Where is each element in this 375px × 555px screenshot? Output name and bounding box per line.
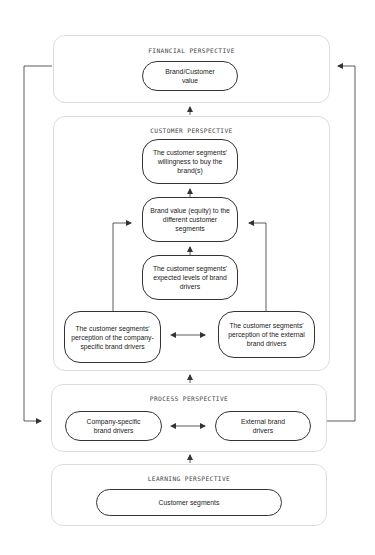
node-brand-customer-value: Brand/Customer value — [142, 61, 238, 91]
node-external-drivers: External brand drivers — [215, 411, 311, 441]
financial-perspective-title: FINANCIAL PERSPECTIVE — [54, 47, 329, 54]
node-perception-external: The customer segments' perception of the… — [218, 311, 315, 358]
learning-perspective-title: LEARNING PERSPECTIVE — [52, 475, 326, 482]
customer-perspective-title: CUSTOMER PERSPECTIVE — [54, 127, 329, 134]
node-expected-levels: The customer segments' expected levels o… — [142, 255, 238, 300]
node-perception-company: The customer segments' perception of the… — [64, 311, 161, 363]
node-customer-segments: Customer segments — [96, 489, 282, 516]
node-willingness-to-buy: The customer segments' willingness to bu… — [142, 139, 238, 184]
node-brand-value-equity: Brand value (equity) to the different cu… — [142, 197, 238, 242]
process-perspective-title: PROCESS PERSPECTIVE — [52, 395, 326, 402]
node-company-drivers: Company-specific brand drivers — [65, 411, 162, 441]
